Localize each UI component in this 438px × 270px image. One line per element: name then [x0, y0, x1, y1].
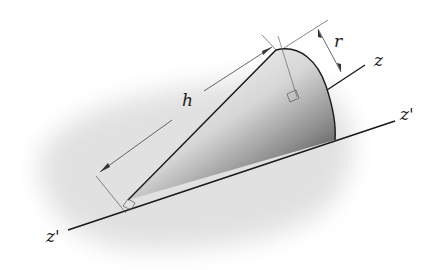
label-z-prime-right: z' [400, 106, 414, 123]
axis-line-z [327, 65, 365, 90]
label-h: h [182, 92, 193, 109]
cone-diagram: h r z z' z' [0, 0, 438, 270]
label-r: r [334, 33, 342, 50]
diagram-canvas [0, 0, 438, 270]
label-z: z [374, 52, 383, 69]
label-z-prime-left: z' [46, 228, 60, 245]
